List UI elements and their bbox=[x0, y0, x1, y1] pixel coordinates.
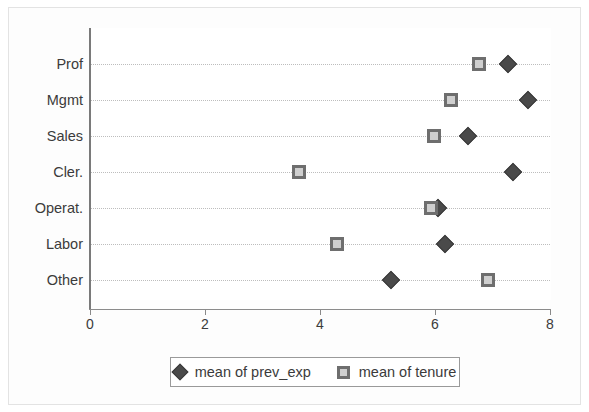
x-axis-tick bbox=[550, 309, 551, 315]
data-point-square bbox=[424, 201, 438, 215]
diamond-marker-icon bbox=[171, 364, 188, 381]
gridline bbox=[91, 100, 550, 102]
data-point-square bbox=[427, 129, 441, 143]
data-point-square bbox=[292, 165, 306, 179]
y-axis-label-cler: Cler. bbox=[53, 164, 83, 180]
gridline bbox=[91, 136, 550, 138]
y-axis-spine bbox=[89, 28, 91, 310]
x-axis-tick-label: 2 bbox=[201, 316, 209, 332]
data-point-square bbox=[444, 93, 458, 107]
x-axis-tick-label: 6 bbox=[431, 316, 439, 332]
gridline bbox=[91, 172, 550, 174]
y-axis-label-mgmt: Mgmt bbox=[47, 92, 83, 108]
y-axis-label-operat: Operat. bbox=[35, 200, 83, 216]
gridline bbox=[91, 208, 550, 210]
x-axis-tick bbox=[205, 309, 206, 315]
square-marker-icon bbox=[337, 366, 350, 379]
data-point-square bbox=[481, 273, 495, 287]
legend-label-prev-exp: mean of prev_exp bbox=[195, 364, 311, 380]
y-axis-label-other: Other bbox=[47, 272, 83, 288]
y-axis-label-labor: Labor bbox=[46, 236, 83, 252]
x-axis-tick bbox=[90, 309, 91, 315]
legend-item-prev-exp[interactable]: mean of prev_exp bbox=[174, 364, 311, 380]
chart-canvas: ProfMgmtSalesCler.Operat.LaborOther 0246… bbox=[0, 0, 589, 412]
legend-item-tenure[interactable]: mean of tenure bbox=[337, 364, 457, 380]
x-axis-tick-label: 4 bbox=[316, 316, 324, 332]
x-axis-tick bbox=[320, 309, 321, 315]
y-axis-label-prof: Prof bbox=[56, 56, 83, 72]
y-axis-category-labels: ProfMgmtSalesCler.Operat.LaborOther bbox=[0, 0, 83, 412]
x-axis-tick-label: 8 bbox=[546, 316, 554, 332]
y-axis-label-sales: Sales bbox=[47, 128, 83, 144]
x-axis-tick-label: 0 bbox=[86, 316, 94, 332]
chart-legend: mean of prev_exp mean of tenure bbox=[170, 357, 460, 387]
data-point-square bbox=[330, 237, 344, 251]
data-point-square bbox=[472, 57, 486, 71]
x-axis-tick bbox=[435, 309, 436, 315]
gridline bbox=[91, 244, 550, 246]
legend-label-tenure: mean of tenure bbox=[359, 364, 457, 380]
